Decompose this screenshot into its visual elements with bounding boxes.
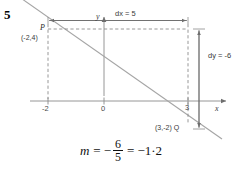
y-axis-label: y — [96, 13, 100, 21]
dx-label: dx = 5 — [115, 10, 136, 18]
point-p-label: P — [40, 24, 45, 32]
question-number: 5 — [4, 8, 11, 21]
point-p-coordinates: (-2,4) — [21, 34, 38, 41]
x-axis-label: x — [215, 105, 219, 113]
formula-m-symbol: m — [80, 143, 90, 158]
x-tick-label-minus2: -2 — [42, 105, 49, 113]
construction-dashed-lines — [48, 24, 188, 124]
formula-equals-second: = — [124, 143, 137, 158]
dx-measure-arrow — [48, 17, 188, 24]
formula-denominator: 5 — [113, 150, 123, 163]
figure-page: 5 y x -2 0 3 P (-2,4) (3,-2) Q dx = 5 dy… — [0, 0, 242, 173]
point-q-coordinates: (3,-2) Q — [155, 124, 179, 131]
dy-label: dy = -6 — [208, 52, 231, 60]
x-tick-label-three: 3 — [185, 104, 189, 112]
formula-equals-first: = — [90, 143, 103, 158]
slope-formula: m=−65=−1·2 — [0, 139, 242, 164]
formula-fraction: 65 — [113, 138, 123, 163]
x-tick-label-zero: 0 — [101, 105, 105, 113]
formula-numerator: 6 — [113, 138, 123, 150]
dy-measure-arrow — [193, 29, 205, 129]
formula-result: −1·2 — [137, 143, 162, 158]
formula-minus-sign: − — [104, 143, 112, 158]
